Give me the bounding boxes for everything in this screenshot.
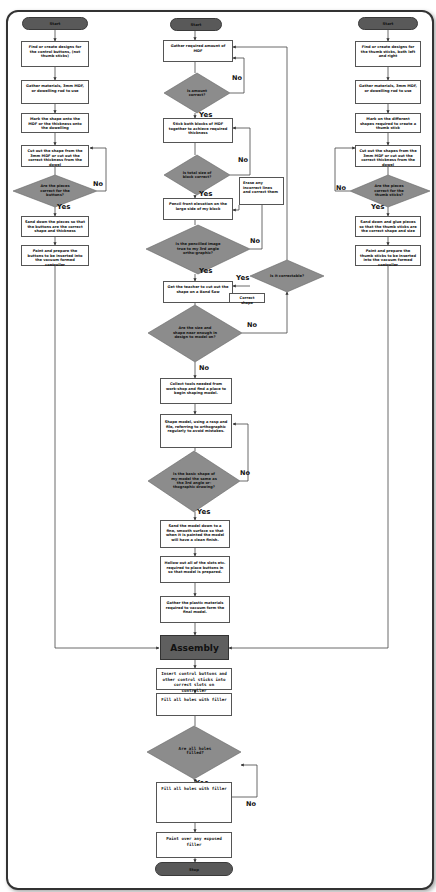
right-step-paint-prepare: Paint and prepare the thumb sticks to be…	[355, 245, 421, 266]
left-start-terminal: Start	[22, 17, 88, 30]
middle-start-terminal: Start	[170, 18, 222, 31]
middle-step-correct-shape: Correct shape	[229, 293, 265, 303]
left-step-sand-down: Sand down the pieces so that the buttons…	[21, 216, 89, 237]
right-step-gather-materials: Gather materials, 3mm MDF, or dowelling …	[355, 80, 421, 104]
basic-shape-decision-label: Is the basic shape of my model the same …	[170, 470, 218, 492]
penciled-decision-label: Is the pencilled image true to my 3rd an…	[174, 240, 222, 258]
middle-step-teacher-bandsaw: Get the teacher to cut out the shape on …	[163, 281, 233, 303]
right-step-cut-out: Cut out the shapes from the 3mm MDF or c…	[355, 145, 421, 167]
right-step-find-designs: Find or create designs for the thumb sti…	[355, 41, 421, 67]
holes-no-label: No	[246, 800, 256, 808]
assembly-block: Assembly	[160, 635, 229, 660]
middle-step-insert-buttons: Insert control buttons and other control…	[156, 668, 232, 690]
right-step-mark-shapes: Mark on the different shapes required to…	[355, 113, 421, 133]
stop-terminal: Stop	[155, 862, 233, 876]
amount-no-label: No	[232, 74, 242, 82]
middle-step-paint-filler: Paint over any exposed filler	[156, 832, 232, 858]
left-step-paint-prepare: Paint and prepare the buttons to be inse…	[21, 245, 89, 266]
middle-step-fill-holes-2: Fill all holes with filler	[156, 782, 232, 823]
right-decision-yes-label: Yes	[371, 203, 384, 211]
total-decision-label: Is total size of block correct?	[178, 168, 216, 182]
middle-step-stick-blocks: Stick both blocks of MDF together to ach…	[163, 118, 233, 143]
size-no-right-label: No	[247, 321, 257, 329]
penciled-yes-label: Yes	[199, 267, 212, 275]
right-start-terminal: Start	[358, 17, 418, 30]
left-decision-no-label: No	[93, 180, 103, 188]
basic-yes-label: Yes	[197, 508, 210, 516]
holes-decision-label: Are all holes filled?	[176, 744, 214, 758]
right-decision-label: Are the pieces correct for the thumb sti…	[370, 183, 408, 199]
left-step-cut-out: Cut out the shape from the 3mm MDF or cu…	[21, 145, 89, 167]
size-no-down-label: No	[199, 364, 209, 372]
size-decision-label: Are the size and shape near enough in de…	[172, 324, 218, 342]
middle-step-erase-lines: Erase any incorrect lines and correct th…	[239, 177, 284, 205]
penciled-no-label: No	[250, 237, 260, 245]
middle-step-pencil-elevation: Pencil front elevation on the large side…	[163, 198, 233, 220]
middle-step-fill-holes-1: Fill all holes with filler	[156, 693, 232, 716]
left-step-mark-shape: Mark the shape onto the MDF or the thick…	[21, 113, 89, 133]
left-decision-label: Are the pieces correct for the buttons?	[36, 183, 74, 199]
middle-step-sand-model: Sand the model down to a fine, smooth su…	[160, 520, 230, 548]
left-step-gather-materials: Gather materials, 3mm MDF, or dowelling …	[21, 80, 89, 104]
middle-step-gather-mdf: Gather required amount of MDF	[163, 40, 233, 62]
basic-no-label: No	[240, 469, 250, 477]
total-yes-label: Yes	[199, 190, 212, 198]
middle-step-gather-plastic: Gather the plastic materials required to…	[160, 596, 230, 623]
left-step-find-designs: Find or create designs for the control b…	[21, 41, 89, 67]
middle-step-shape-model: Shape model, using a rasp and file, refe…	[160, 414, 232, 448]
correctable-decision-label: Is it correctable?	[264, 272, 310, 280]
total-no-label: No	[238, 156, 248, 164]
amount-decision-label: Is amount correct?	[182, 86, 212, 100]
right-decision-no-label: No	[336, 184, 346, 192]
middle-step-hollow-slots: Hollow out all of the slots etc. require…	[160, 556, 230, 583]
left-decision-yes-label: Yes	[57, 203, 70, 211]
right-step-sand-glue: Sand down and glue pieces so that the th…	[355, 216, 421, 237]
correctable-yes-label: Yes	[236, 274, 249, 282]
middle-step-collect-tools: Collect tools needed from work-shop and …	[160, 378, 232, 404]
